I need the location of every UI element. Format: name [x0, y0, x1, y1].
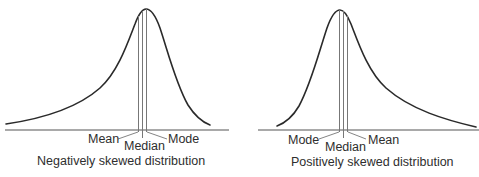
left-median-label: Median — [124, 139, 165, 153]
left-caption: Negatively skewed distribution — [37, 154, 205, 168]
right-mode-label: Mode — [288, 133, 319, 147]
right-caption: Positively skewed distribution — [291, 155, 454, 169]
left-density-curve — [6, 9, 210, 125]
distributions-drawing — [0, 0, 479, 177]
left-panel-graphic — [5, 9, 229, 139]
left-mode-label: Mode — [168, 132, 199, 146]
right-mean-leader — [348, 132, 366, 139]
left-mean-label: Mean — [88, 132, 119, 146]
right-panel-graphic — [258, 10, 479, 139]
right-median-label: Median — [325, 140, 366, 154]
skewed-distributions-figure: Mean Median Mode Negatively skewed distr… — [0, 0, 479, 177]
left-mode-leader — [147, 132, 167, 139]
left-mean-leader — [118, 132, 138, 139]
right-mean-label: Mean — [368, 133, 399, 147]
right-density-curve — [277, 10, 476, 127]
right-mode-leader — [319, 132, 339, 139]
